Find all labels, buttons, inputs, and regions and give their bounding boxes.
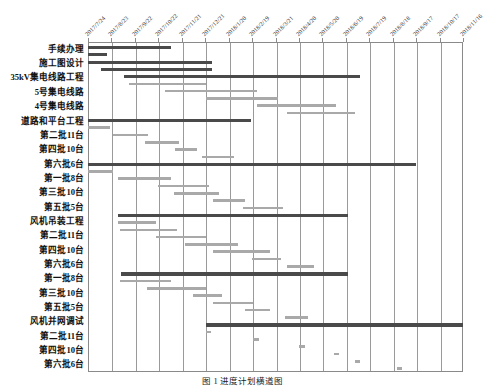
gantt-bar [118, 221, 156, 224]
y-axis-label: 第三批10台 [39, 288, 84, 298]
gantt-bar [355, 360, 360, 363]
y-axis-label: 第五批5台 [44, 202, 84, 212]
y-axis-label: 第四批10台 [39, 144, 84, 154]
gantt-bar [165, 90, 256, 93]
y-axis-labels: 手续办理施工图设计35kV集电线路工程5号集电线路4号集电线路道路和平台工程第二… [0, 42, 86, 372]
gantt-bar [88, 53, 107, 56]
gantt-bar [202, 156, 235, 159]
figure-caption: 图 1 进度计划横道图 [0, 374, 485, 386]
gantt-bar [124, 75, 360, 78]
gantt-bar [253, 338, 259, 341]
gantt-bar [252, 258, 281, 261]
y-axis-label: 第三批10台 [39, 187, 84, 197]
gantt-chart: 2017/7/242017/8/232017/9/222017/10/22201… [0, 0, 485, 388]
gantt-bar [206, 97, 277, 100]
gantt-bar [88, 61, 212, 64]
gantt-bar [158, 185, 208, 188]
gantt-bar [175, 148, 197, 151]
y-axis-label: 4号集电线路 [35, 101, 84, 111]
gantt-bar [287, 112, 355, 115]
x-tick-label: 2018/4/20 [295, 15, 318, 38]
x-tick-label: 2017/8/23 [107, 15, 130, 38]
gantt-bar [129, 83, 206, 86]
gantt-bar [299, 345, 305, 348]
x-tick-label: 2017/12/21 [201, 13, 226, 38]
y-axis-label: 第四批10台 [39, 245, 84, 255]
y-axis-label: 第二批11台 [40, 130, 84, 140]
y-axis-label: 风机并网调试 [30, 316, 84, 326]
gantt-bar [121, 272, 348, 275]
gantt-bar [213, 250, 269, 253]
gantt-bar [118, 177, 171, 180]
gantt-bar [285, 316, 308, 319]
y-axis-label: 第一批8台 [44, 273, 84, 283]
y-axis-label: 35kV集电线路工程 [10, 72, 84, 82]
gantt-bar [206, 331, 211, 334]
gantt-bar [147, 287, 207, 290]
gantt-bar [193, 294, 221, 297]
gantt-bar [145, 141, 179, 144]
y-axis-label: 第六批6台 [44, 259, 84, 269]
gantt-bar [120, 280, 172, 283]
x-tick-label: 2018/5/20 [318, 15, 341, 38]
gantt-bar [243, 207, 283, 210]
gantt-bar [174, 192, 220, 195]
gantt-bar [88, 119, 251, 122]
gantt-bar [88, 163, 416, 166]
y-axis-label: 第五批5台 [44, 302, 84, 312]
gantt-bar [156, 236, 206, 239]
gantt-bar [257, 104, 337, 107]
y-axis-label: 第四批10台 [39, 345, 84, 355]
x-tick-label: 2018/9/17 [412, 15, 435, 38]
y-axis-label: 第一批8台 [44, 173, 84, 183]
gantt-bar [88, 170, 113, 173]
x-tick-label: 2017/9/22 [131, 15, 154, 38]
x-tick-label: 2018/10/17 [436, 13, 461, 38]
y-axis-label: 道路和平台工程 [21, 116, 84, 126]
x-tick-label: 2018/2/19 [248, 15, 271, 38]
gantt-bar [88, 46, 171, 49]
gantt-bar [88, 126, 110, 129]
x-tick-label: 2018/8/18 [389, 15, 412, 38]
y-axis-label: 第二批11台 [40, 331, 84, 341]
y-axis-label: 施工图设计 [39, 58, 84, 68]
x-tick-label: 2018/6/19 [342, 15, 365, 38]
y-axis-label: 第六批6台 [44, 159, 84, 169]
gantt-bar [118, 214, 348, 217]
gantt-bar [334, 353, 339, 356]
x-tick-label: 2017/7/24 [84, 15, 107, 38]
y-axis-label: 手续办理 [48, 44, 84, 54]
gantt-bar [113, 134, 148, 137]
gantt-bar [185, 243, 238, 246]
gantt-bar [245, 309, 270, 312]
gantt-bar [213, 199, 245, 202]
x-tick-label: 2018/11/16 [459, 13, 484, 38]
gantt-bars [88, 42, 463, 372]
y-axis-label: 第二批11台 [40, 230, 84, 240]
y-axis-label: 风机吊装工程 [30, 216, 84, 226]
gantt-bar [101, 68, 212, 71]
gantt-bar [213, 302, 253, 305]
x-tick-label: 2018/3/21 [272, 15, 295, 38]
gantt-bar [397, 367, 402, 370]
y-axis-label: 第六批6台 [44, 359, 84, 369]
x-tick-label: 2017/11/21 [178, 13, 203, 38]
gantt-bar [120, 229, 177, 232]
gantt-bar [206, 323, 463, 326]
x-axis: 2017/7/242017/8/232017/9/222017/10/22201… [0, 0, 485, 42]
x-tick-label: 2018/7/19 [365, 15, 388, 38]
x-tick-label: 2017/10/22 [154, 13, 179, 38]
x-tick-label: 2018/1/20 [225, 15, 248, 38]
x-tick-mark [463, 38, 464, 42]
gantt-bar [287, 265, 314, 268]
y-axis-label: 5号集电线路 [35, 87, 84, 97]
